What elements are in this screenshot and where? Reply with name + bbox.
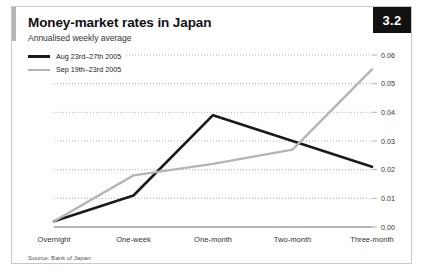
- y-axis-tick-label: 0.00: [381, 223, 395, 232]
- y-axis-tick-label: 0.02: [381, 165, 395, 174]
- legend-swatch-sep-icon: [28, 69, 50, 71]
- line-chart-svg: [54, 55, 372, 227]
- y-axis-tick-label: 0.01: [381, 194, 395, 203]
- series-line: [54, 115, 372, 221]
- legend-swatch-aug-icon: [28, 55, 50, 58]
- chart-legend: Aug 23rd–27th 2005 Sep 19th–23rd 2005: [28, 51, 124, 77]
- figure-number-badge: 3.2: [373, 7, 411, 33]
- chart-subtitle: Annualised weekly average: [28, 33, 131, 43]
- source-note: Source: Bank of Japan: [28, 254, 91, 261]
- chart-title: Money-market rates in Japan: [28, 15, 211, 30]
- x-axis-tick-label: Overnight: [38, 235, 71, 244]
- legend-item-sep: Sep 19th–23rd 2005: [28, 64, 124, 75]
- y-axis-tick-label: 0.03: [381, 137, 395, 146]
- legend-item-aug: Aug 23rd–27th 2005: [28, 51, 124, 62]
- y-axis-tick-label: 0.06: [381, 51, 395, 60]
- x-axis-tick-label: Two-month: [274, 235, 312, 244]
- legend-label-sep: Sep 19th–23rd 2005: [56, 65, 121, 74]
- x-axis-tick-label: Three-month: [350, 235, 393, 244]
- y-axis-tick-label: 0.04: [381, 108, 395, 117]
- y-axis-tick-label: 0.05: [381, 79, 395, 88]
- x-axis-tick-label: One-week: [116, 235, 151, 244]
- figure-card: 3.2 Money-market rates in Japan Annualis…: [11, 6, 412, 264]
- x-axis-tick-label: One-month: [194, 235, 232, 244]
- gridlines: [54, 55, 377, 227]
- plot-area: [54, 55, 372, 227]
- accent-bar: [12, 7, 16, 41]
- legend-label-aug: Aug 23rd–27th 2005: [56, 52, 121, 61]
